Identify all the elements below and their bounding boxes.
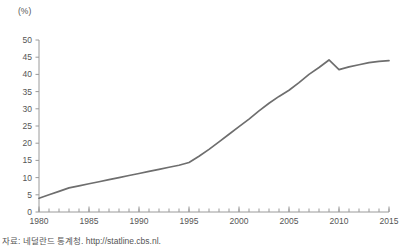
y-tick-label: 40 — [23, 69, 33, 79]
y-tick-label: 10 — [23, 173, 33, 183]
y-tick-label: 45 — [23, 52, 33, 62]
y-tick-label: 50 — [23, 35, 33, 45]
y-axis-tick-labels: 05101520253035404550 — [23, 35, 33, 217]
y-tick-label: 5 — [27, 190, 32, 200]
y-tick-label: 20 — [23, 138, 33, 148]
y-axis-group: 05101520253035404550 — [23, 35, 39, 217]
x-tick-label: 2000 — [230, 216, 249, 226]
chart-container: (%) 05101520253035404550 198019851990199… — [0, 0, 401, 250]
x-axis-major-ticks — [39, 207, 389, 213]
y-tick-label: 15 — [23, 155, 33, 165]
x-tick-label: 1985 — [80, 216, 99, 226]
x-tick-label: 1990 — [130, 216, 149, 226]
y-tick-label: 30 — [23, 104, 33, 114]
data-series-group — [39, 60, 389, 198]
x-axis-minor-ticks — [39, 209, 389, 213]
x-tick-label: 2005 — [280, 216, 299, 226]
y-axis-ticks — [36, 40, 40, 212]
x-axis-group: 19801985199019952000200520102015 — [30, 207, 399, 227]
line-chart-plot: 05101520253035404550 1980198519901995200… — [0, 0, 401, 250]
y-tick-label: 25 — [23, 121, 33, 131]
y-tick-label: 35 — [23, 87, 33, 97]
x-tick-label: 1980 — [30, 216, 49, 226]
x-axis-tick-labels: 19801985199019952000200520102015 — [30, 216, 399, 226]
data-line-series — [39, 60, 389, 198]
source-note: 자료: 네덜란드 통계청. http://statline.cbs.nl. — [2, 234, 161, 246]
x-tick-label: 2015 — [380, 216, 399, 226]
x-tick-label: 2010 — [330, 216, 349, 226]
x-tick-label: 1995 — [180, 216, 199, 226]
